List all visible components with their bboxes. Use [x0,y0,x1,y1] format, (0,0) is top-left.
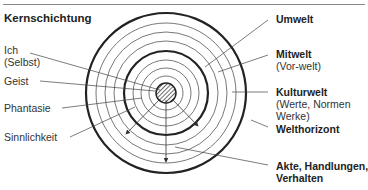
label-geist: Geist [4,75,29,87]
label-line: Akte, Handlungen, [276,160,368,172]
label-ich-selbst: Ich (Selbst) [4,44,40,68]
label-akte-handlungen: Akte, Handlungen, Verhalten [276,160,368,184]
label-kulturwelt: Kulturwelt (Werte, Normen Werke) [276,86,351,122]
label-line: Werke) [276,110,351,122]
label-line: Verhalten [276,172,368,184]
label-line: (Werte, Normen [276,98,351,110]
label-line: Mitwelt [276,48,321,60]
label-line: (Selbst) [4,56,40,68]
label-line: Kulturwelt [276,86,351,98]
label-sinnlichkeit: Sinnlichkeit [4,131,57,143]
label-line: Ich [4,44,40,56]
label-welthorizont: Welthorizont [276,123,339,135]
label-umwelt: Umwelt [276,13,313,25]
label-phantasie: Phantasie [4,102,51,114]
label-mitwelt: Mitwelt (Vor-welt) [276,48,321,72]
label-line: (Vor-welt) [276,60,321,72]
